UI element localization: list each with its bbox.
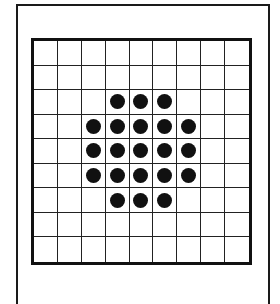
grid-cell (58, 139, 82, 164)
grid-cell (177, 213, 201, 238)
grid-cell (225, 213, 249, 238)
grid-cell (58, 41, 82, 66)
grid-cell (153, 90, 177, 115)
grid-cell (153, 164, 177, 189)
dot-marker (181, 143, 196, 158)
grid-cell (130, 90, 154, 115)
grid-cell (130, 213, 154, 238)
dot-grid-board (31, 38, 252, 265)
dot-marker (181, 168, 196, 183)
grid-cell (153, 115, 177, 140)
grid-cell (130, 188, 154, 213)
grid-cell (34, 90, 58, 115)
dot-marker (86, 143, 101, 158)
grid-cell (106, 66, 130, 91)
grid-cell (82, 41, 106, 66)
grid-cell (177, 115, 201, 140)
grid-cell (201, 90, 225, 115)
grid-cell (34, 139, 58, 164)
dot-marker (157, 119, 172, 134)
grid-cell (153, 188, 177, 213)
grid-cell (225, 188, 249, 213)
grid-cell (130, 164, 154, 189)
grid-cell (106, 164, 130, 189)
grid-cell (58, 213, 82, 238)
grid-cell (153, 237, 177, 262)
grid-cell (106, 115, 130, 140)
dot-marker (110, 143, 125, 158)
grid-cell (153, 139, 177, 164)
dot-marker (157, 193, 172, 208)
dot-marker (86, 119, 101, 134)
grid-cell (177, 164, 201, 189)
grid-cell (201, 41, 225, 66)
dot-marker (133, 143, 148, 158)
grid-cell (177, 90, 201, 115)
dot-marker (110, 119, 125, 134)
dot-marker (133, 193, 148, 208)
grid-cell (201, 115, 225, 140)
dot-marker (133, 119, 148, 134)
grid-cell (225, 115, 249, 140)
grid-cell (82, 90, 106, 115)
dot-marker (86, 168, 101, 183)
grid-cell (201, 188, 225, 213)
grid-cell (82, 188, 106, 213)
grid-cell (58, 188, 82, 213)
grid-cell (177, 66, 201, 91)
grid-cell (130, 139, 154, 164)
grid-cell (82, 237, 106, 262)
grid-cell (34, 188, 58, 213)
grid-cell (201, 213, 225, 238)
dot-marker (133, 168, 148, 183)
grid-cell (153, 66, 177, 91)
grid-cell (58, 237, 82, 262)
grid-cell (106, 41, 130, 66)
grid-cell (130, 115, 154, 140)
dot-marker (157, 168, 172, 183)
grid-cell (201, 139, 225, 164)
grid-cell (82, 213, 106, 238)
grid-cell (58, 66, 82, 91)
grid-cell (130, 237, 154, 262)
grid-cell (106, 237, 130, 262)
grid-cell (225, 90, 249, 115)
grid-cell (177, 237, 201, 262)
grid-cell (34, 115, 58, 140)
grid-cell (34, 41, 58, 66)
grid-cell (130, 41, 154, 66)
grid-cell (82, 139, 106, 164)
grid-cell (225, 139, 249, 164)
dot-marker (157, 143, 172, 158)
grid-cell (201, 66, 225, 91)
grid-cell (106, 188, 130, 213)
grid-cell (58, 115, 82, 140)
grid-cell (130, 66, 154, 91)
dot-marker (157, 94, 172, 109)
grid-cell (177, 139, 201, 164)
grid-cell (82, 115, 106, 140)
grid-cell (201, 237, 225, 262)
grid-cell (153, 41, 177, 66)
grid-cell (225, 41, 249, 66)
grid-cell (58, 164, 82, 189)
dot-marker (110, 94, 125, 109)
grid-cell (34, 213, 58, 238)
grid-cell (225, 237, 249, 262)
grid-cell (106, 139, 130, 164)
grid-cell (225, 66, 249, 91)
grid-cell (58, 90, 82, 115)
grid-cell (201, 164, 225, 189)
grid-cell (34, 237, 58, 262)
dot-marker (110, 168, 125, 183)
dot-marker (133, 94, 148, 109)
grid-cell (153, 213, 177, 238)
grid-cell (34, 164, 58, 189)
grid-cell (106, 90, 130, 115)
grid-cell (106, 213, 130, 238)
grid-cell (82, 66, 106, 91)
grid-cell (177, 41, 201, 66)
grid-cell (34, 66, 58, 91)
grid-cell (82, 164, 106, 189)
grid-cell (225, 164, 249, 189)
